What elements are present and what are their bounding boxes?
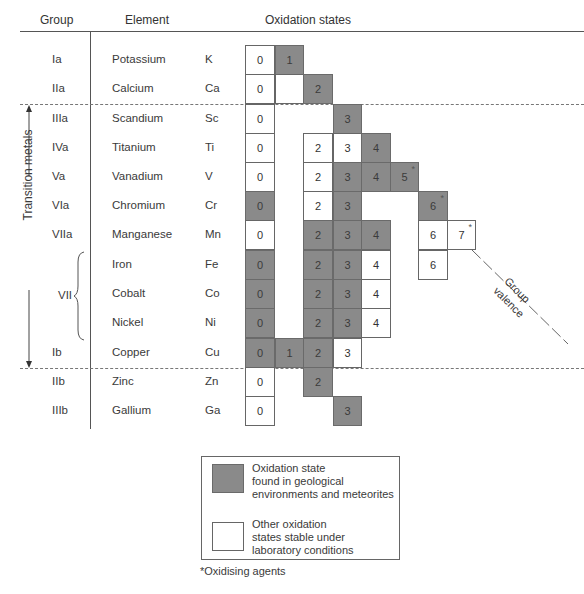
oxidation-state-cell: 1 xyxy=(275,338,304,368)
oxidation-state-cell: 0 xyxy=(245,338,275,368)
element-name: Cobalt xyxy=(112,287,145,299)
oxidation-state-cell: 2 xyxy=(303,308,333,338)
oxidation-state-cell: 4 xyxy=(361,162,391,192)
oxidation-state-value: 3 xyxy=(344,317,350,329)
oxidation-state-value: 2 xyxy=(315,376,321,388)
oxidation-state-cell: 0 xyxy=(245,191,275,221)
oxidation-state-cell: 2 xyxy=(303,133,333,163)
element-symbol: Ni xyxy=(205,316,216,328)
header-rule xyxy=(20,31,584,32)
oxidation-state-cell: 3 xyxy=(333,133,362,163)
element-name: Calcium xyxy=(112,82,154,94)
oxidation-state-value: 0 xyxy=(257,347,263,359)
oxidation-state-cell: 0 xyxy=(245,104,275,134)
transition-metals-label: Transition metals xyxy=(21,125,35,225)
header-element: Element xyxy=(125,13,169,27)
oxidation-state-value: 0 xyxy=(257,200,263,212)
oxidation-state-value: 1 xyxy=(286,347,292,359)
oxidation-state-cell: 4 xyxy=(361,220,391,250)
oxidation-state-value: 0 xyxy=(257,259,263,271)
element-symbol: Fe xyxy=(205,258,218,270)
oxidising-agent-asterisk-icon: * xyxy=(411,164,415,174)
oxidation-state-value: 0 xyxy=(257,229,263,241)
oxidation-state-cell: 2 xyxy=(303,338,333,368)
oxidation-state-cell xyxy=(275,74,304,104)
oxidation-state-value: 0 xyxy=(257,113,263,125)
oxidation-state-cell: 2 xyxy=(303,367,333,397)
group-label: VIa xyxy=(52,199,69,211)
group-label: IIIa xyxy=(52,112,68,124)
transition-top-separator xyxy=(20,104,584,105)
oxidation-state-value: 4 xyxy=(373,142,379,154)
oxidation-state-cell: 3 xyxy=(333,191,362,221)
element-symbol: Co xyxy=(205,287,220,299)
oxidation-state-cell: 0 xyxy=(245,45,275,75)
oxidation-state-cell: 3 xyxy=(333,396,362,426)
group-label: IIb xyxy=(52,375,65,387)
element-symbol: Sc xyxy=(205,112,218,124)
element-symbol: Zn xyxy=(205,375,218,387)
oxidation-state-value: 3 xyxy=(344,142,350,154)
group-valence-line xyxy=(470,248,584,358)
oxidation-state-cell: 6* xyxy=(418,191,448,221)
group-brace xyxy=(72,250,88,342)
oxidation-state-value: 1 xyxy=(286,54,292,66)
element-name: Scandium xyxy=(112,112,163,124)
oxidation-state-cell: 0 xyxy=(245,279,275,309)
group-label: IIa xyxy=(52,82,65,94)
element-symbol: Cu xyxy=(205,346,220,358)
group-label: VIIa xyxy=(52,228,72,240)
oxidation-state-value: 4 xyxy=(373,171,379,183)
oxidation-state-cell: 1 xyxy=(275,45,304,75)
oxidation-state-value: 4 xyxy=(373,259,379,271)
group-label: IVa xyxy=(52,141,68,153)
oxidation-state-cell: 2 xyxy=(303,220,333,250)
oxidation-state-cell: 4 xyxy=(361,133,391,163)
oxidation-state-value: 2 xyxy=(315,347,321,359)
oxidation-state-value: 0 xyxy=(257,171,263,183)
oxidation-state-value: 7 xyxy=(458,229,464,241)
oxidation-state-value: 3 xyxy=(344,229,350,241)
oxidation-state-cell: 2 xyxy=(303,74,333,104)
oxidation-state-value: 4 xyxy=(373,288,379,300)
oxidation-state-value: 0 xyxy=(257,288,263,300)
group-label: Ia xyxy=(52,53,62,65)
oxidation-state-cell: 0 xyxy=(245,220,275,250)
oxidation-state-value: 2 xyxy=(315,83,321,95)
group-label-vii: VII xyxy=(58,289,72,301)
oxidation-state-value: 2 xyxy=(315,288,321,300)
oxidation-state-value: 6 xyxy=(430,259,436,271)
element-name: Manganese xyxy=(112,228,172,240)
oxidation-state-cell: 2 xyxy=(303,191,333,221)
element-name: Nickel xyxy=(112,316,143,328)
oxidation-state-cell: 0 xyxy=(245,367,275,397)
oxidation-state-value: 3 xyxy=(344,200,350,212)
legend: Oxidation state found in geological envi… xyxy=(201,456,400,560)
oxidising-agent-asterisk-icon: * xyxy=(468,222,472,232)
oxidation-state-value: 0 xyxy=(257,142,263,154)
legend-text-laboratory: Other oxidation states stable under labo… xyxy=(252,518,402,557)
legend-swatch-geological xyxy=(212,464,244,493)
oxidation-state-cell: 5* xyxy=(390,162,419,192)
element-symbol: Ga xyxy=(205,404,220,416)
oxidation-state-cell: 0 xyxy=(245,162,275,192)
group-label: IIIb xyxy=(52,404,68,416)
oxidation-state-cell: 6 xyxy=(418,220,448,250)
oxidation-state-value: 3 xyxy=(344,113,350,125)
element-name: Iron xyxy=(112,258,132,270)
header-group: Group xyxy=(40,13,73,27)
column-divider xyxy=(90,31,91,429)
oxidation-state-value: 6 xyxy=(430,229,436,241)
oxidising-agent-asterisk-icon: * xyxy=(440,193,444,203)
oxidation-state-value: 3 xyxy=(344,259,350,271)
oxidation-state-cell: 2 xyxy=(303,250,333,280)
oxidation-state-cell: 3 xyxy=(333,338,362,368)
element-symbol: V xyxy=(205,170,213,182)
oxidation-state-value: 0 xyxy=(257,317,263,329)
oxidation-state-cell: 4 xyxy=(361,308,391,338)
oxidation-state-cell: 7* xyxy=(447,220,476,250)
oxidation-state-value: 2 xyxy=(315,142,321,154)
element-name: Copper xyxy=(112,346,150,358)
legend-text-geological: Oxidation state found in geological envi… xyxy=(252,462,402,501)
oxidation-state-cell: 0 xyxy=(245,74,275,104)
